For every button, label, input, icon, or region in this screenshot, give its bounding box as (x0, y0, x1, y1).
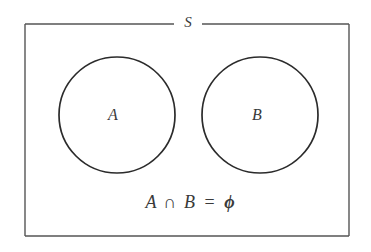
formula-operand-b: B (184, 192, 195, 212)
set-a-label: A (107, 106, 118, 123)
formula-equals-sign: = (205, 192, 215, 212)
intersection-formula: A ∩ B = ϕ (144, 192, 234, 212)
venn-diagram: S A B A ∩ B = ϕ (0, 0, 371, 252)
venn-diagram-canvas: S A B A ∩ B = ϕ (0, 0, 371, 252)
intersection-operator-icon: ∩ (164, 192, 177, 212)
universal-set-label: S (184, 14, 192, 30)
set-b-label: B (252, 106, 262, 123)
formula-operand-a: A (144, 192, 157, 212)
formula-empty-set-phi: ϕ (224, 192, 234, 212)
